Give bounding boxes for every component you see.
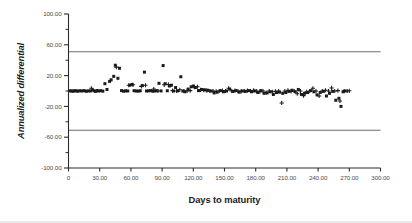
data-point-square (116, 77, 119, 80)
x-tick-label: 300.00 (371, 174, 390, 181)
data-point-plus (347, 89, 351, 93)
x-tick-label: 0 (67, 174, 71, 181)
y-tick-label: -60.00 (45, 133, 63, 140)
data-point-plus (280, 101, 284, 105)
chart-canvas: -100.00-60.00-20.0020.0060.00100.00030.0… (0, 0, 412, 223)
x-tick-label: 90.00 (155, 174, 171, 181)
x-tick-label: 180.00 (247, 174, 266, 181)
data-point-square (334, 99, 337, 102)
data-point-square (325, 95, 328, 98)
data-point-square (174, 86, 177, 89)
x-tick-label: 120.00 (184, 174, 203, 181)
y-tick-label: 60.00 (47, 41, 63, 48)
x-tick-label: 210.00 (278, 174, 297, 181)
y-tick-label: -100.00 (41, 164, 62, 171)
data-point-square (105, 88, 108, 91)
y-tick-label: 20.00 (47, 72, 63, 79)
y-axis-title: Annualized differential (15, 43, 26, 140)
x-tick-label: 150.00 (215, 174, 234, 181)
data-point-square (143, 71, 146, 74)
y-tick-label: -20.00 (45, 103, 63, 110)
data-point-square (103, 82, 106, 85)
data-point-square (101, 90, 104, 93)
data-point-square (162, 64, 165, 67)
footer-divider (0, 221, 412, 223)
x-axis-title: Days to maturity (189, 194, 262, 205)
data-point-plus (330, 86, 334, 90)
y-tick-label: 100.00 (43, 10, 62, 17)
data-point-square (112, 75, 115, 78)
data-point-square (166, 89, 169, 92)
x-tick-label: 270.00 (340, 174, 359, 181)
x-tick-label: 60.00 (123, 174, 139, 181)
scatter-chart: -100.00-60.00-20.0020.0060.00100.00030.0… (0, 0, 412, 223)
data-point-square (157, 82, 160, 85)
data-point-square (110, 78, 113, 81)
series-square-markers (69, 64, 347, 108)
series-plus-markers (89, 65, 351, 105)
data-point-plus (336, 89, 340, 93)
data-point-square (339, 105, 342, 108)
data-point-plus (143, 83, 147, 87)
data-point-square (179, 75, 182, 78)
data-point-square (281, 92, 284, 95)
x-tick-label: 30.00 (92, 174, 108, 181)
data-point-square (139, 89, 142, 92)
data-point-square (126, 90, 129, 93)
x-tick-label: 240.00 (309, 174, 328, 181)
